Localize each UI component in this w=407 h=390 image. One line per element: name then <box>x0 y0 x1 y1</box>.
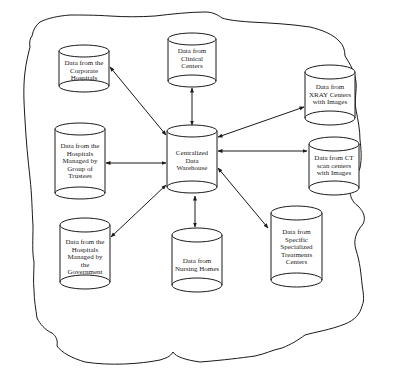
label-specialized-centers: Data from Specific Specialized Treatment… <box>271 229 322 267</box>
edge-corporate <box>110 67 166 135</box>
edge-government <box>111 185 166 237</box>
label-centralized-warehouse: Centralized Data Warehouse <box>165 150 219 173</box>
label-corporate-hospitals: Data from the Corporate Hospitals <box>59 60 109 83</box>
label-xray-centers: Data from XRAY Centers with Images <box>299 84 361 107</box>
label-ct-scan-centers: Data from CT scan centers with Images <box>309 155 359 178</box>
label-nursing-homes: Data from Nursing Homes <box>168 258 226 273</box>
label-clinical-centers: Data from Clinical Centers <box>168 48 216 71</box>
edge-xray <box>218 107 304 137</box>
edge-specialized <box>218 168 268 228</box>
label-government-hospitals: Data from the Hospitals Managed by the G… <box>60 239 110 277</box>
label-trustees-hospitals: Data from the Hospitals Managed by Group… <box>55 143 105 181</box>
diagram-canvas: Data from the Corporate Hospitals Data f… <box>0 0 407 390</box>
